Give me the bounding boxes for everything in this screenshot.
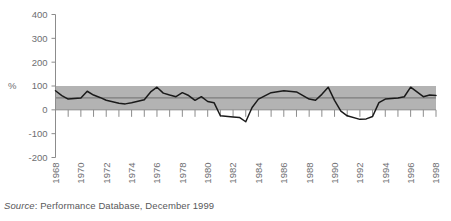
x-tick-label: 1994 [380, 163, 391, 184]
x-tick-label: 1986 [278, 163, 289, 184]
x-tick-label: 1984 [253, 163, 264, 184]
x-tick-label: 1992 [354, 163, 365, 184]
y-axis-unit-label: % [8, 80, 17, 91]
source-note: Source: Performance Database, December 1… [4, 200, 214, 211]
y-tick-label: 0 [42, 104, 47, 115]
chart-figure: 4003002001000-100-200%196819701972197419… [0, 0, 451, 221]
source-label: Source [4, 200, 35, 211]
x-tick-label: 1990 [329, 163, 340, 184]
y-tick-label: 300 [32, 33, 48, 44]
x-tick-label: 1996 [405, 163, 416, 184]
x-tick-label: 1968 [50, 163, 61, 184]
y-tick-label: -100 [28, 128, 47, 139]
x-tick-label: 1980 [202, 163, 213, 184]
x-tick-label: 1972 [101, 163, 112, 184]
x-tick-label: 1970 [75, 163, 86, 184]
x-tick-label: 1976 [151, 163, 162, 184]
y-tick-label: -200 [28, 152, 47, 163]
x-tick-label: 1988 [304, 163, 315, 184]
x-tick-label: 1974 [126, 163, 137, 184]
x-tick-label: 1978 [177, 163, 188, 184]
y-tick-label: 100 [32, 80, 48, 91]
y-tick-label: 200 [32, 57, 48, 68]
x-tick-label: 1982 [227, 163, 238, 184]
source-text: : Performance Database, December 1999 [35, 200, 215, 211]
line-chart: 4003002001000-100-200%196819701972197419… [0, 0, 451, 200]
y-tick-label: 400 [32, 9, 48, 20]
x-tick-label: 1998 [430, 163, 441, 184]
